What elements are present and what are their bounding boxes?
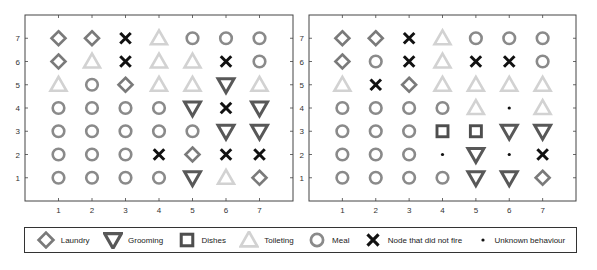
y-tick-label: 4 [300, 104, 305, 113]
right-plot-canvas: 12345677654321 [0, 0, 597, 222]
x-tick-label: 1 [340, 206, 345, 215]
dot-icon [508, 106, 511, 109]
legend-item-unknown-behaviour: Unknown behaviour [476, 231, 566, 249]
legend-item-did-not-fire: Node that did not fire [363, 231, 462, 249]
y-tick-label: 2 [300, 151, 305, 160]
diamond-icon [38, 233, 53, 248]
legend-label: Laundry [61, 236, 90, 245]
y-tick-label: 7 [300, 34, 305, 43]
square-icon [181, 234, 193, 246]
x-cross-icon [368, 236, 377, 245]
x-tick-label: 5 [474, 206, 479, 215]
legend-item-toileting: Toileting [239, 231, 293, 249]
y-tick-label: 3 [300, 127, 305, 136]
legend-item-meal: Meal [307, 231, 349, 249]
y-tick-label: 6 [300, 58, 305, 67]
y-tick-label: 1 [300, 174, 305, 183]
dot-icon [508, 153, 511, 156]
legend-item-dishes: Dishes [177, 231, 226, 249]
down-triangle-icon [105, 234, 122, 249]
x-tick-label: 7 [540, 206, 545, 215]
legend-label: Node that did not fire [388, 236, 462, 245]
y-tick-label: 5 [300, 81, 305, 90]
circle-icon [311, 234, 323, 246]
legend-label: Meal [332, 236, 349, 245]
x-tick-label: 4 [440, 206, 445, 215]
x-tick-label: 6 [507, 206, 512, 215]
dot-icon [481, 238, 484, 241]
legend-label: Unknown behaviour [495, 236, 566, 245]
dot-icon [441, 153, 444, 156]
legend: LaundryGroomingDishesToiletingMealNode t… [24, 227, 577, 253]
legend-label: Dishes [202, 236, 226, 245]
legend-label: Grooming [128, 236, 163, 245]
up-triangle-icon [241, 232, 258, 247]
legend-label: Toileting [264, 236, 293, 245]
x-tick-label: 3 [407, 206, 412, 215]
legend-item-grooming: Grooming [103, 231, 163, 249]
x-tick-label: 2 [374, 206, 379, 215]
legend-item-laundry: Laundry [36, 231, 90, 249]
